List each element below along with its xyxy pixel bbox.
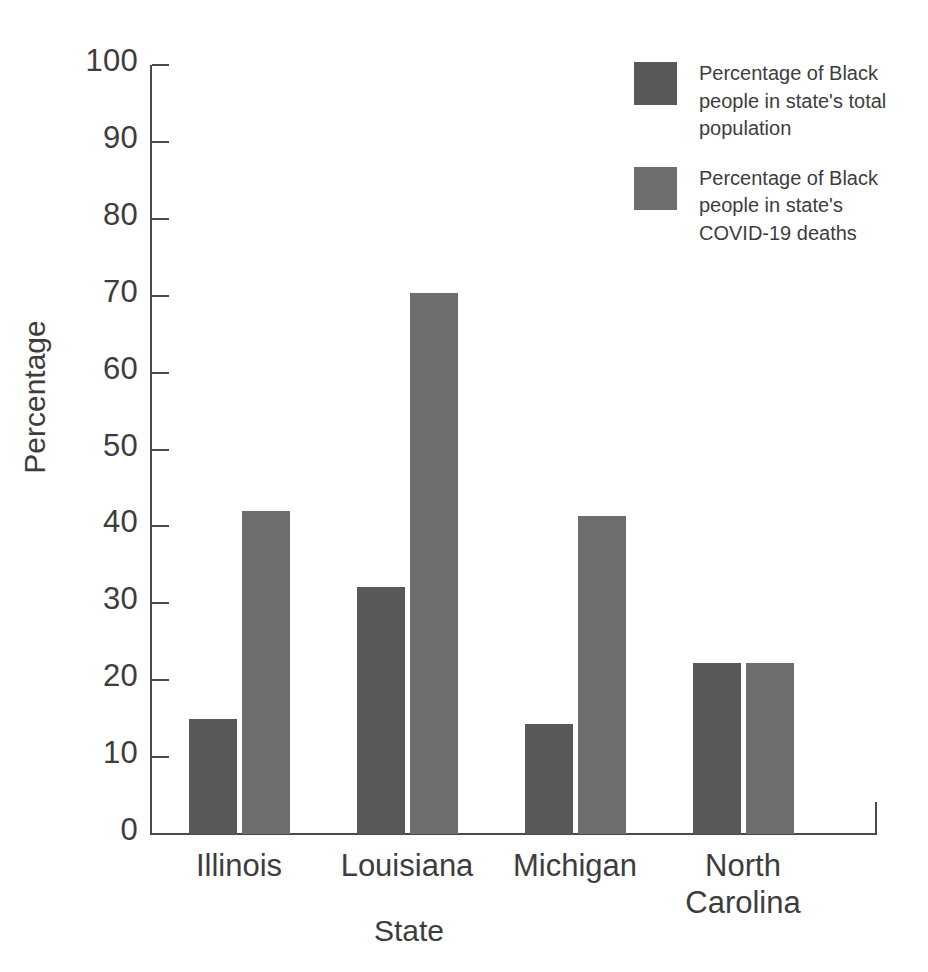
legend-entry: Percentage of Black people in state's CO… — [634, 165, 924, 248]
legend-label: Percentage of Black people in state's CO… — [699, 165, 899, 248]
y-axis-tick-label: 0 — [0, 812, 138, 848]
x-axis-category-label: North Carolina — [633, 848, 853, 921]
bar — [746, 663, 794, 834]
x-axis-title: State — [0, 914, 928, 948]
bar — [578, 516, 626, 834]
y-axis-tick-label: 100 — [0, 43, 138, 79]
bar — [242, 511, 290, 834]
x-axis-title-text: State — [374, 914, 444, 947]
y-axis-tick-label: 80 — [0, 197, 138, 233]
legend-swatch — [634, 62, 677, 105]
y-axis-tick-label: 30 — [0, 581, 138, 617]
legend-entry: Percentage of Black people in state's to… — [634, 60, 924, 143]
bar — [357, 587, 405, 834]
bar — [410, 293, 458, 834]
bar — [693, 663, 741, 834]
bar-chart: 1009080706050403020100 IllinoisLouisiana… — [0, 0, 928, 972]
y-axis-tick-label: 90 — [0, 120, 138, 156]
y-axis-tick-label: 10 — [0, 735, 138, 771]
legend-swatch — [634, 167, 677, 210]
legend-label: Percentage of Black people in state's to… — [699, 60, 899, 143]
y-axis-tick-label: 20 — [0, 658, 138, 694]
y-axis-title: Percentage — [18, 287, 52, 507]
chart-legend: Percentage of Black people in state's to… — [634, 60, 924, 270]
y-axis-tick-label: 40 — [0, 504, 138, 540]
bar — [189, 719, 237, 834]
bar — [525, 724, 573, 834]
